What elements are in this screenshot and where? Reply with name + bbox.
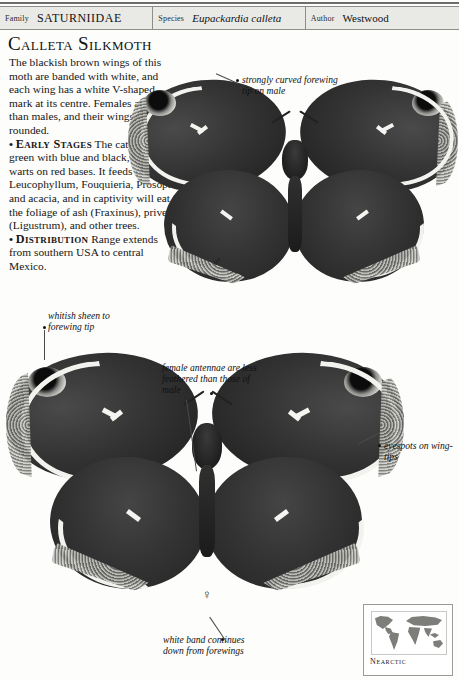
world-map: [371, 611, 447, 655]
annotation-dot-whitish-sheen: [43, 326, 46, 329]
annotation-female-antennae: female antennae are less feathered than …: [162, 362, 270, 395]
female-sex-symbol: ♀: [202, 587, 212, 603]
heading-distribution: Distribution: [16, 232, 88, 246]
header-field-species: Species Eupackardia calleta: [152, 6, 304, 30]
thorax-female: [192, 423, 222, 469]
page-title: Calleta Silkmoth: [8, 33, 152, 55]
header-field-family: Family SATURNIIDAE: [0, 6, 152, 30]
map-region-label: Nearctic: [370, 657, 406, 666]
annotation-eyespots: eyespots on wing-tips: [384, 440, 456, 462]
abdomen-female: [199, 465, 215, 557]
field-guide-page: Family SATURNIIDAE Species Eupackardia c…: [0, 0, 459, 680]
header-value-species: Eupackardia calleta: [184, 12, 281, 24]
header-label-family: Family: [0, 14, 29, 23]
annotation-dot-eyespots: [378, 444, 381, 447]
abdomen: [288, 176, 302, 252]
bullet-glyph-distribution: •: [9, 233, 13, 245]
header-label-author: Author: [306, 14, 335, 23]
male-specimen-photo: ♂: [128, 78, 458, 303]
taxonomy-header: Family SATURNIIDAE Species Eupackardia c…: [0, 6, 459, 28]
header-top-rule: [0, 2, 459, 4]
landmass-north-america: [375, 616, 393, 629]
heading-early-stages: Early Stages: [16, 137, 92, 151]
header-value-family: SATURNIIDAE: [29, 11, 122, 26]
annotation-white-band: white band continues down from forewings: [163, 634, 267, 656]
eyespot-forewing-left: [144, 90, 176, 116]
annotation-dot-female-antennae: [210, 392, 213, 395]
header-value-author: Westwood: [335, 12, 389, 24]
annotation-forewing-tip-male: strongly curved forewing tip on male: [242, 74, 350, 96]
thorax: [282, 140, 308, 180]
landmass-south-america: [389, 632, 400, 650]
distribution-map-box: Nearctic: [363, 604, 453, 676]
male-sex-symbol: ♂: [212, 254, 222, 270]
landmass-southeast-asia: [430, 633, 439, 638]
landmass-africa: [408, 627, 422, 645]
annotation-whitish-sheen: whitish sheen to forewing tip: [48, 310, 144, 332]
bullet-glyph-early-stages: •: [9, 138, 13, 150]
landmass-australia: [432, 640, 443, 648]
landmass-india: [424, 628, 432, 637]
leader-line-whitish-sheen: [44, 330, 45, 360]
header-label-species: Species: [153, 14, 184, 23]
header-field-author: Author Westwood: [305, 6, 459, 30]
